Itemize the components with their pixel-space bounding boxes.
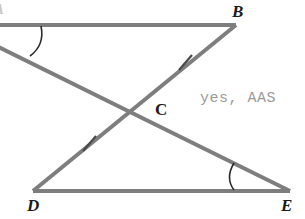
vertex-label-b: B — [232, 3, 243, 20]
geometry-figure: A B C D E yes, AAS — [0, 0, 305, 219]
vertex-label-d: D — [27, 197, 39, 214]
vertex-label-c: C — [155, 101, 167, 118]
vertex-label-e: E — [281, 197, 292, 214]
geometry-canvas — [0, 0, 305, 219]
angle-arc-e-icon — [230, 163, 235, 190]
vertex-label-a: A — [0, 2, 4, 17]
angle-arc-a-icon — [30, 26, 42, 56]
segment-bd — [33, 25, 236, 191]
segment-ae — [0, 28, 290, 191]
answer-annotation: yes, AAS — [200, 90, 276, 107]
